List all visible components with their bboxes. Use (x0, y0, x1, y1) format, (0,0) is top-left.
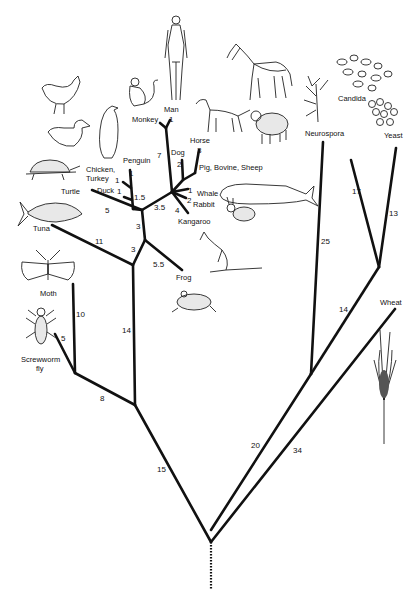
taxon-label-pig-bovine-sheep: Pig, Bovine, Sheep (199, 163, 263, 172)
turtle-illustration (26, 160, 80, 180)
branch-length: 10 (76, 310, 85, 319)
branch-neurospora (311, 142, 323, 374)
branch-length: 8 (100, 394, 105, 403)
taxon-label-candida: Candida (338, 94, 367, 103)
moth-illustration (22, 250, 75, 280)
phylogenetic-tree: Man Monkey Dog Horse Pig, Bovine, Sheep … (0, 0, 418, 592)
branch-moth (73, 284, 75, 373)
screwworm-fly-illustration (26, 308, 56, 344)
branch-length: 34 (293, 446, 302, 455)
branch-duck (124, 197, 132, 200)
chicken-illustration (42, 76, 80, 114)
taxon-label-tuna: Tuna (33, 224, 51, 233)
taxon-labels: Man Monkey Dog Horse Pig, Bovine, Sheep … (21, 94, 403, 373)
taxon-label-chicken: Chicken, (86, 165, 115, 174)
taxon-label-turkey: Turkey (86, 174, 109, 183)
yeast-illustration (369, 99, 398, 126)
taxon-label-screwworm: Screwworm (21, 355, 60, 364)
taxon-label-penguin: Penguin (123, 156, 151, 165)
branch-length: 3 (136, 222, 141, 231)
taxon-label-rabbit: Rabbit (193, 200, 216, 209)
branch-primates (166, 128, 172, 192)
taxon-label-fly: fly (36, 364, 44, 373)
branch-length: 1 (115, 176, 120, 185)
taxon-label-man: Man (164, 105, 179, 114)
branch-birds-stem (133, 209, 142, 210)
taxon-label-neurospora: Neurospora (305, 129, 345, 138)
branch-length: 25 (321, 237, 330, 246)
taxon-label-wheat: Wheat (380, 298, 403, 307)
taxon-label-moth: Moth (40, 289, 57, 298)
branch-length: 11 (95, 237, 104, 246)
branch-animals (135, 405, 211, 542)
tuna-illustration (18, 202, 82, 226)
branch-length: 13 (389, 209, 398, 218)
branch-yeast (379, 148, 396, 267)
branch-vertebrates (133, 265, 135, 405)
branch-length: 1 (169, 115, 174, 124)
frog-illustration (172, 291, 216, 312)
branch-length: 4 (175, 206, 180, 215)
branch-length: 5.5 (153, 260, 165, 269)
sheep-illustration (251, 111, 288, 144)
branch-monkey (160, 123, 166, 128)
branch-length: 3 (131, 245, 136, 254)
taxon-label-duck: Duck (97, 186, 114, 195)
horse-illustration (227, 44, 292, 100)
branch-length: 5 (105, 206, 110, 215)
branch-wheat (211, 309, 395, 542)
dog-illustration (196, 100, 250, 133)
neurospora-illustration (304, 76, 328, 122)
kangaroo-illustration (200, 232, 262, 272)
taxon-label-kangaroo: Kangaroo (178, 217, 211, 226)
branch-tuna (52, 225, 133, 265)
taxon-label-dog: Dog (171, 148, 185, 157)
branch-length: 1 (117, 187, 122, 196)
wheat-illustration (374, 330, 396, 444)
taxon-label-whale: Whale (197, 189, 218, 198)
penguin-illustration (100, 106, 119, 158)
branch-pig (183, 173, 195, 180)
branch-length: 2 (187, 196, 192, 205)
branch-length: 14 (122, 326, 131, 335)
taxon-label-yeast: Yeast (384, 131, 403, 140)
candida-illustration (337, 55, 392, 91)
taxon-label-frog: Frog (176, 273, 191, 282)
whale-illustration (220, 184, 318, 206)
branch-length: 7 (157, 151, 162, 160)
branch-yeasts (311, 267, 379, 374)
branch-length: 1.5 (134, 193, 146, 202)
branch-length: 5 (61, 334, 66, 343)
man-illustration (165, 16, 187, 100)
rabbit-illustration (227, 197, 255, 221)
branch-length: 3.5 (154, 203, 166, 212)
taxon-label-monkey: Monkey (132, 115, 159, 124)
taxon-label-horse: Horse (190, 136, 210, 145)
monkey-illustration (130, 78, 159, 106)
branch-amniotes (142, 210, 145, 240)
branch-length: 17 (352, 187, 361, 196)
branch-length: 15 (157, 465, 166, 474)
taxon-label-turtle: Turtle (61, 187, 80, 196)
branch-length: 20 (251, 441, 260, 450)
branch-length: 2 (177, 160, 182, 169)
branch-length: 3 (197, 146, 202, 155)
branch-candida (351, 160, 379, 267)
branch-length: 1 (129, 169, 134, 178)
branch-length: 1 (188, 186, 193, 195)
branch-length: 14 (339, 305, 348, 314)
branch-insects (75, 373, 135, 405)
duck-illustration (48, 120, 90, 146)
